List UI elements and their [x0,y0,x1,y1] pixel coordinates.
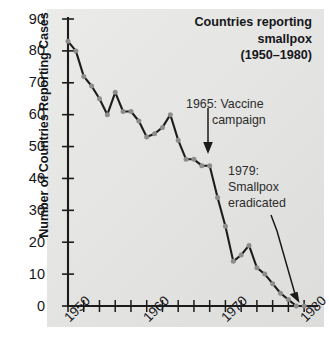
data-point-marker [207,163,212,168]
data-point-marker [191,157,196,162]
data-point-marker [66,39,71,44]
data-point-marker [302,304,307,309]
data-point-marker [247,243,252,248]
data-point-marker [160,125,165,130]
data-point-marker [168,112,173,117]
data-point-marker [254,265,259,270]
data-point-marker [270,281,275,286]
data-point-marker [184,157,189,162]
data-point-marker [89,83,94,88]
arrow-smallpox-eradicated [271,215,300,303]
data-point-marker [199,163,204,168]
data-point-marker [223,224,228,229]
data-line-smallpox [68,41,304,306]
data-point-marker [105,112,110,117]
data-point-markers [66,39,307,309]
data-point-marker [294,304,299,309]
data-point-marker [215,195,220,200]
data-point-marker [81,74,86,79]
data-point-marker [121,109,126,114]
data-point-marker [97,96,102,101]
data-point-marker [262,272,267,277]
data-point-marker [239,252,244,257]
arrow-vaccine-campaign [203,108,213,154]
data-point-marker [231,259,236,264]
data-point-marker [128,109,133,114]
data-point-marker [144,134,149,139]
data-point-marker [176,138,181,143]
data-point-marker [73,48,78,53]
axis-ticks [62,19,304,312]
data-point-marker [152,131,157,136]
data-point-marker [278,291,283,296]
data-point-marker [136,119,141,124]
data-point-marker [113,90,118,95]
data-point-marker [286,297,291,302]
